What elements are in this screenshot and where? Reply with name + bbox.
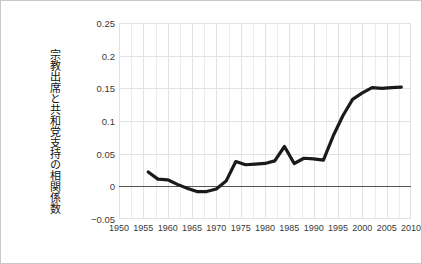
- y-axis-tick-label: 0.05: [69, 148, 115, 159]
- x-axis-tick-label: 1950: [109, 223, 129, 233]
- chart-figure: 宗教出席と共和党支持の相関係数 −0.0500.050.10.150.20.25…: [0, 0, 422, 264]
- x-axis-tick-label: 1965: [182, 223, 202, 233]
- y-axis-tick-label: 0.2: [69, 50, 115, 61]
- x-axis-tick-label: 1990: [304, 223, 324, 233]
- y-axis-title: 宗教出席と共和党支持の相関係数: [37, 33, 61, 229]
- x-axis-tick-label: 2005: [377, 223, 397, 233]
- x-axis-tick-labels: 1950195519601965197019751980198519901995…: [119, 223, 411, 237]
- series-polyline: [148, 87, 401, 192]
- chart-plot-svg: [119, 23, 411, 219]
- x-axis-tick-label: 1960: [158, 223, 178, 233]
- x-axis-tick-label: 1980: [255, 223, 275, 233]
- grid-major-lines: [119, 23, 411, 219]
- data-series-line: [148, 87, 401, 192]
- y-axis-tick-label: 0.15: [69, 83, 115, 94]
- x-axis-tick-label: 2010: [401, 223, 421, 233]
- x-axis-tick-label: 1975: [231, 223, 251, 233]
- x-axis-tick-label: 1970: [206, 223, 226, 233]
- y-axis-tick-labels: −0.0500.050.10.150.20.25: [65, 23, 115, 219]
- x-axis-tick-label: 1995: [328, 223, 348, 233]
- plot-area: [119, 23, 411, 219]
- y-axis-tick-label: 0: [69, 181, 115, 192]
- x-axis-tick-label: 1955: [133, 223, 153, 233]
- x-axis-tick-label: 1985: [279, 223, 299, 233]
- y-axis-tick-label: 0.1: [69, 116, 115, 127]
- y-axis-tick-label: 0.25: [69, 18, 115, 29]
- x-axis-tick-label: 2000: [352, 223, 372, 233]
